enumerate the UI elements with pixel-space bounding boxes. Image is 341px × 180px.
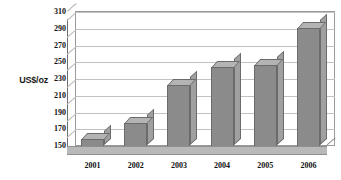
bar-2006[interactable] (297, 20, 320, 153)
bar-front-face (254, 65, 277, 153)
y-axis-tick-labels: 310290270250230210190170150 (44, 0, 66, 180)
y-axis-tick-170: 170 (44, 125, 66, 133)
y-axis-tick-190: 190 (44, 109, 66, 117)
bar-front-face (211, 67, 234, 153)
y-axis-tick-290: 290 (44, 25, 66, 33)
bar-chart: US$/oz 310290270250230210190170150 20012… (0, 0, 341, 180)
y-axis-tick-210: 210 (44, 92, 66, 100)
x-axis-tick-2002: 2002 (119, 161, 153, 170)
y-axis-tick-150: 150 (44, 142, 66, 150)
x-axis-tick-2006: 2006 (291, 161, 325, 170)
bar-side-face (320, 13, 327, 145)
y-axis-title: US$/oz (2, 75, 48, 85)
x-axis-tick-2005: 2005 (248, 161, 282, 170)
bar-front-face (167, 85, 190, 153)
x-axis-tick-2004: 2004 (205, 161, 239, 170)
bar-2004[interactable] (211, 59, 234, 153)
y-axis-tick-310: 310 (44, 8, 66, 16)
y-axis-tick-270: 270 (44, 42, 66, 50)
bar-2005[interactable] (254, 57, 277, 153)
bar-2003[interactable] (167, 77, 190, 153)
x-axis-tick-2003: 2003 (162, 161, 196, 170)
y-axis-tick-230: 230 (44, 75, 66, 83)
plot-floor (67, 146, 327, 155)
y-axis-tick-250: 250 (44, 58, 66, 66)
plot-floor-right-edge (327, 138, 337, 155)
plot-area (67, 11, 335, 161)
bar-front-face (297, 28, 320, 153)
gridline-310 (76, 12, 335, 13)
x-axis-tick-2001: 2001 (76, 161, 110, 170)
x-axis-tick-labels: 200120022003200420052006 (67, 161, 337, 175)
